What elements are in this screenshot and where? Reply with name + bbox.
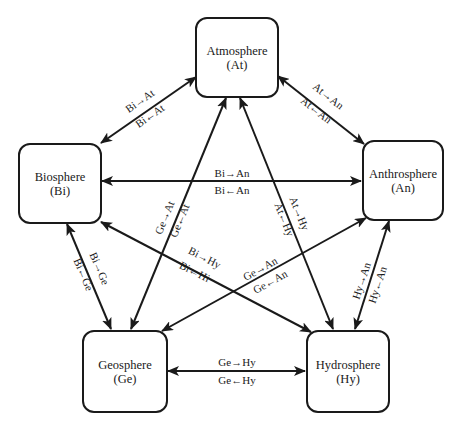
node-geosphere-abbr: (Ge) [114,372,137,386]
node-biosphere: Biosphere (Bi) [18,143,102,224]
node-atmosphere: Atmosphere (At) [195,17,279,98]
node-atmosphere-name: Atmosphere [206,44,267,58]
node-geosphere-name: Geosphere [98,358,151,372]
node-hydrosphere: Hydrosphere (Hy) [306,330,390,413]
label-ge-hy-backward: Ge←Hy [218,374,256,386]
node-hydrosphere-abbr: (Hy) [336,372,360,386]
node-geosphere: Geosphere (Ge) [82,330,168,413]
label-bi-an-forward: Bi→An [215,167,250,179]
node-anthrosphere: Anthrosphere (An) [362,140,444,221]
node-hydrosphere-name: Hydrosphere [316,358,381,372]
label-bi-an-backward: Bi←An [215,184,250,196]
node-biosphere-abbr: (Bi) [50,184,70,198]
node-atmosphere-abbr: (At) [227,58,248,72]
node-anthrosphere-name: Anthrosphere [369,167,437,181]
node-biosphere-name: Biosphere [35,170,86,184]
label-ge-hy-forward: Ge→Hy [218,356,256,368]
node-anthrosphere-abbr: (An) [391,181,415,195]
